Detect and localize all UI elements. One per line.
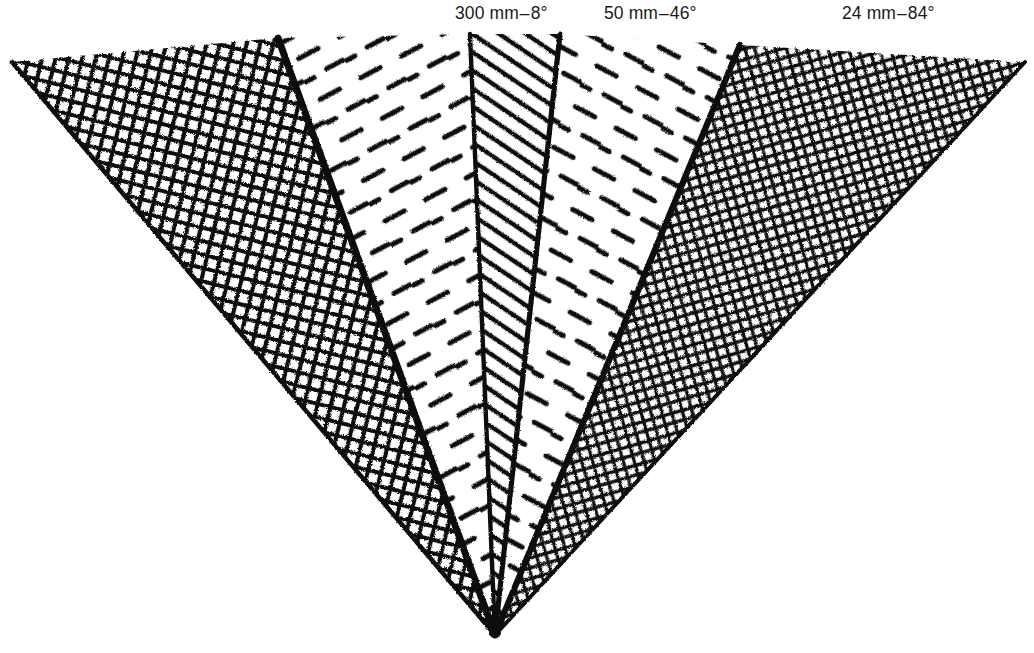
- lens-angle-of-view-figure: 300 mm–8° 50 mm–46° 24 mm–84°: [0, 0, 1034, 653]
- apex-point: [489, 628, 501, 638]
- angle-of-view-diagram: [0, 0, 1034, 653]
